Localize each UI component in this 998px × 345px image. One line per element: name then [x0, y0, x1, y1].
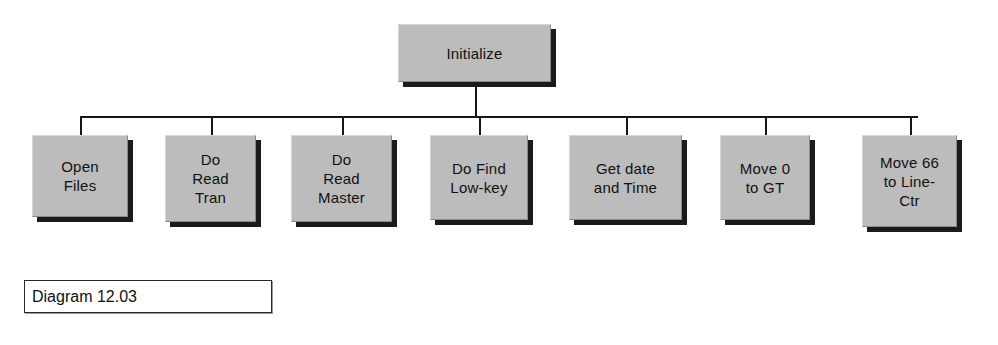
process-box-label: Get date and Time [594, 159, 657, 197]
process-box[interactable]: Do Find Low-key [430, 135, 528, 220]
caption-box[interactable]: Diagram 12.03 [24, 280, 272, 313]
connector-child-stem-3 [342, 116, 344, 135]
connector-bus-horizontal [80, 116, 918, 118]
diagram-canvas: InitializeOpen FilesDo Read TranDo Read … [0, 0, 998, 345]
process-box-label: Initialize [446, 44, 502, 63]
process-box-label: Do Read Master [318, 150, 365, 207]
connector-root-stem [475, 82, 477, 116]
process-box[interactable]: Open Files [32, 135, 128, 217]
process-box-label: Move 66 to Line- Ctr [880, 153, 939, 210]
process-box-label: Move 0 to GT [740, 159, 790, 197]
process-box[interactable]: Do Read Master [291, 135, 392, 222]
process-box[interactable]: Get date and Time [569, 135, 682, 220]
connector-child-stem-4 [479, 116, 481, 135]
connector-child-stem-5 [626, 116, 628, 135]
process-box[interactable]: Move 66 to Line- Ctr [862, 135, 957, 227]
process-box[interactable]: Do Read Tran [165, 135, 256, 222]
process-box-label: Open Files [61, 157, 99, 195]
connector-child-stem-2 [211, 116, 213, 135]
caption-label: Diagram 12.03 [25, 288, 137, 306]
process-box[interactable]: Move 0 to GT [720, 135, 810, 220]
process-box-root[interactable]: Initialize [398, 24, 551, 82]
process-box-label: Do Find Low-key [450, 159, 507, 197]
connector-child-stem-7 [910, 116, 912, 135]
process-box-label: Do Read Tran [192, 150, 229, 207]
connector-child-stem-1 [80, 116, 82, 135]
connector-child-stem-6 [765, 116, 767, 135]
